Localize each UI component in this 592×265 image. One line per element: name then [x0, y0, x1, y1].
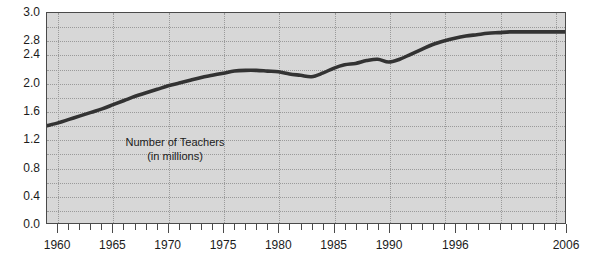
x-tick-minor — [90, 224, 91, 230]
x-axis: 196019651970197519801985199019962006 — [46, 224, 566, 265]
x-tick-minor — [79, 224, 80, 230]
x-tick-minor — [478, 224, 479, 230]
x-tick-minor — [256, 224, 257, 230]
x-tick-major — [278, 224, 279, 233]
x-tick-minor — [367, 224, 368, 230]
y-axis: 0.00.40.81.21.62.02.42.83.0 — [0, 0, 40, 265]
x-tick-minor — [234, 224, 235, 230]
x-tick-minor — [301, 224, 302, 230]
x-tick-major — [455, 224, 456, 233]
x-tick-major — [389, 224, 390, 233]
x-tick-minor — [212, 224, 213, 230]
x-tick-minor — [289, 224, 290, 230]
y-tick-label: 3.0 — [0, 5, 40, 19]
y-tick-label: 2.8 — [0, 33, 40, 47]
x-tick-minor — [544, 224, 545, 230]
series-teachers — [47, 13, 565, 223]
x-tick-minor — [433, 224, 434, 230]
x-tick-label: 1980 — [265, 238, 292, 252]
annotation-title: Number of Teachers — [105, 135, 245, 149]
x-tick-minor — [135, 224, 136, 230]
y-tick-label: 0.4 — [0, 189, 40, 203]
x-tick-minor — [356, 224, 357, 230]
x-tick-major — [57, 224, 58, 233]
x-tick-minor — [533, 224, 534, 230]
x-tick-major — [334, 224, 335, 233]
y-tick-label: 0.0 — [0, 217, 40, 231]
y-tick-label: 1.2 — [0, 132, 40, 146]
x-tick-label: 1985 — [320, 238, 347, 252]
x-tick-minor — [422, 224, 423, 230]
x-tick-label: 1996 — [442, 238, 469, 252]
x-tick-minor — [444, 224, 445, 230]
x-tick-minor — [123, 224, 124, 230]
y-tick-label: 2.0 — [0, 76, 40, 90]
x-tick-minor — [157, 224, 158, 230]
plot-area: Number of Teachers (in millions) — [46, 12, 566, 224]
x-tick-minor — [555, 224, 556, 230]
x-tick-major — [168, 224, 169, 233]
x-tick-label: 1990 — [376, 238, 403, 252]
x-tick-major — [112, 224, 113, 233]
x-tick-minor — [68, 224, 69, 230]
y-tick-label: 1.6 — [0, 104, 40, 118]
y-tick-label: 0.8 — [0, 161, 40, 175]
x-tick-minor — [511, 224, 512, 230]
x-tick-minor — [345, 224, 346, 230]
x-tick-minor — [179, 224, 180, 230]
x-tick-minor — [411, 224, 412, 230]
y-tick-label: 2.4 — [0, 47, 40, 61]
x-tick-minor — [190, 224, 191, 230]
teachers-line-chart: 0.00.40.81.21.62.02.42.83.0 Number of Te… — [0, 0, 592, 265]
x-tick-minor — [522, 224, 523, 230]
x-tick-minor — [201, 224, 202, 230]
x-tick-minor — [312, 224, 313, 230]
x-tick-minor — [323, 224, 324, 230]
x-tick-minor — [400, 224, 401, 230]
x-tick-major — [566, 224, 567, 233]
x-tick-label: 1965 — [99, 238, 126, 252]
plot-annotation: Number of Teachers (in millions) — [105, 135, 245, 163]
annotation-units: (in millions) — [105, 149, 245, 163]
x-tick-label: 1960 — [44, 238, 71, 252]
x-tick-minor — [245, 224, 246, 230]
x-tick-minor — [101, 224, 102, 230]
x-tick-minor — [466, 224, 467, 230]
x-tick-minor — [500, 224, 501, 230]
x-tick-minor — [489, 224, 490, 230]
x-tick-label: 1970 — [154, 238, 181, 252]
series-teachers-path — [47, 32, 565, 126]
x-tick-minor — [378, 224, 379, 230]
x-tick-minor — [146, 224, 147, 230]
x-tick-label: 1975 — [210, 238, 237, 252]
x-tick-minor — [267, 224, 268, 230]
x-tick-major — [223, 224, 224, 233]
x-tick-label: 2006 — [553, 238, 580, 252]
